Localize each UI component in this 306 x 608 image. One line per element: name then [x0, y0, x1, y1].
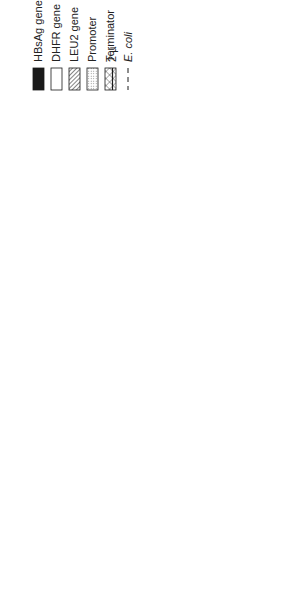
legend-swatch-dhfr — [51, 68, 62, 90]
legend-label-leu2: LEU2 gene — [68, 7, 80, 62]
figure-1: HBsAg gene DHFR gene LEU2 gene Promoter … — [0, 0, 306, 608]
legend-label-promoter: Promoter — [86, 16, 98, 62]
legend-label-hbsag: HBsAg gene — [32, 0, 44, 62]
legend: HBsAg gene DHFR gene LEU2 gene Promoter … — [32, 0, 134, 90]
legend-label-dhfr: DHFR gene — [50, 4, 62, 62]
legend-swatch-promoter — [87, 68, 98, 90]
legend-swatch-leu2 — [69, 68, 80, 90]
legend-swatch-terminator — [105, 68, 116, 90]
legend-label-ecoli: E. coli — [122, 31, 134, 62]
legend-swatch-hbsag — [33, 68, 44, 90]
legend-label-2-micron: 2 µ — [106, 46, 118, 62]
